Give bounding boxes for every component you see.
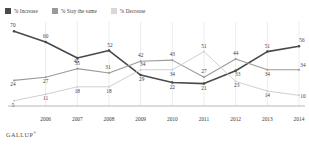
- data-point: [108, 49, 111, 52]
- data-point: [298, 45, 301, 48]
- legend-item-increase: % Increase: [5, 8, 38, 14]
- data-label: 34: [300, 62, 306, 68]
- data-point: [140, 69, 142, 71]
- data-point: [235, 58, 237, 60]
- data-label: 10: [300, 93, 306, 99]
- data-label: 27: [201, 68, 207, 74]
- x-axis-tick-label: 2009: [135, 116, 146, 122]
- data-label: 14: [265, 92, 271, 98]
- chart-plot-area: 7060455229222133515624273531424327443434…: [0, 22, 309, 114]
- x-axis-tick-label: 2008: [104, 116, 115, 122]
- chart-series-group: [13, 30, 301, 102]
- data-label: 29: [139, 76, 145, 82]
- data-point: [13, 30, 16, 33]
- data-label: 43: [170, 51, 176, 57]
- data-label: 11: [43, 95, 48, 101]
- data-label: 56: [299, 37, 305, 43]
- legend-swatch-increase: [5, 8, 11, 14]
- data-label: 34: [140, 61, 146, 67]
- x-axis-tick-label: 2013: [262, 116, 273, 122]
- legend-swatch-decrease: [111, 8, 117, 14]
- chart-value-labels: 7060455229222133515624273531424327443434…: [10, 22, 306, 107]
- data-label: 27: [43, 78, 49, 84]
- data-point: [76, 68, 78, 70]
- data-label: 31: [105, 64, 111, 70]
- chart-figure: % Increase % Stay the same % Decrease 70…: [0, 0, 309, 146]
- data-label: 22: [170, 84, 176, 90]
- legend-item-decrease: % Decrease: [111, 8, 146, 14]
- x-axis-tick-label: 2012: [230, 116, 241, 122]
- data-label: 24: [10, 81, 16, 87]
- legend-swatch-stay-the-same: [52, 8, 58, 14]
- data-point: [44, 41, 47, 44]
- data-point: [203, 76, 205, 78]
- registered-trademark-icon: ®: [33, 131, 36, 135]
- x-axis-tick-label: 2011: [199, 116, 210, 122]
- data-label: 23: [234, 82, 240, 88]
- data-point: [203, 51, 205, 53]
- data-label: 5: [12, 102, 15, 108]
- x-axis-tick-label: 2010: [167, 116, 178, 122]
- x-axis-tick-label: 2007: [72, 116, 83, 122]
- data-label: 70: [10, 22, 16, 28]
- chart-gridlines: [46, 22, 299, 106]
- data-label: 51: [201, 43, 207, 49]
- legend-label-stay-the-same: % Stay the same: [61, 8, 97, 14]
- legend-label-increase: % Increase: [14, 8, 38, 14]
- data-label: 42: [138, 52, 144, 58]
- legend-label-decrease: % Decrease: [120, 8, 146, 14]
- data-label: 44: [233, 50, 239, 56]
- data-label: 33: [235, 71, 241, 77]
- chart-x-axis: 200620072008200920102011201220132014: [0, 116, 309, 128]
- data-point: [171, 59, 173, 61]
- data-label: 21: [201, 85, 207, 91]
- data-point: [298, 69, 300, 71]
- data-label: 35: [75, 60, 81, 66]
- data-point: [108, 72, 110, 74]
- data-label: 52: [107, 42, 113, 48]
- chart-svg: 7060455229222133515624273531424327443434…: [0, 22, 309, 114]
- data-label: 34: [265, 71, 271, 77]
- data-label: 60: [43, 33, 49, 39]
- data-label: 34: [170, 71, 176, 77]
- data-label: 18: [75, 88, 81, 94]
- legend-item-stay-the-same: % Stay the same: [52, 8, 97, 14]
- x-axis-tick-label: 2014: [294, 116, 305, 122]
- x-axis-tick-label: 2006: [40, 116, 51, 122]
- data-point: [266, 50, 269, 53]
- data-label: 51: [265, 43, 271, 49]
- data-label: 18: [106, 88, 112, 94]
- chart-legend: % Increase % Stay the same % Decrease: [5, 8, 145, 14]
- series-line: [14, 31, 299, 83]
- gallup-wordmark: GALLUP®: [6, 131, 36, 138]
- gallup-text: GALLUP: [6, 131, 33, 138]
